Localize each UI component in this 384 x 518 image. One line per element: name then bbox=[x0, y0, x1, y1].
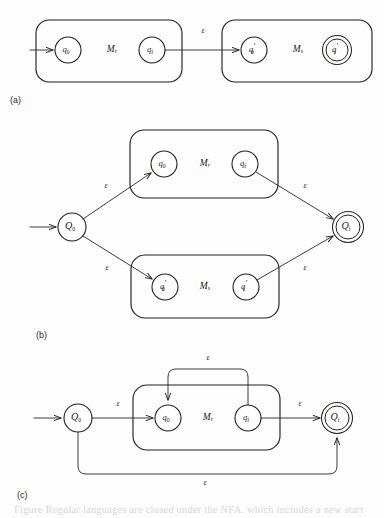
state-qf-b: qf bbox=[232, 151, 258, 177]
transition-label-epsilon-c-2: ε bbox=[298, 399, 302, 408]
transition-path-b-2 bbox=[83, 236, 152, 279]
transition-path-c-loop bbox=[168, 369, 248, 405]
transition-eps-c-2: ε bbox=[261, 399, 320, 418]
state-q0prime-b: q′0 bbox=[152, 274, 178, 300]
state-qfprime-b: q′f bbox=[233, 274, 259, 300]
transition-label-epsilon-b-4: ε bbox=[303, 263, 307, 272]
state-Q0-b: Q0 bbox=[58, 213, 86, 241]
transition-label-epsilon-b-1: ε bbox=[104, 181, 108, 190]
machine-label-ms-b: Ms bbox=[199, 281, 211, 292]
panel-a: Mr q0 qf bbox=[10, 20, 372, 105]
state-q0prime-a: q′0 bbox=[241, 37, 267, 63]
panel-label-a: (a) bbox=[10, 95, 21, 105]
automata-figure-canvas: Mr q0 qf bbox=[0, 0, 384, 518]
state-qfprime-a: q′f bbox=[323, 36, 352, 65]
transition-path-b-1 bbox=[83, 173, 151, 219]
transition-path-c-bypass bbox=[78, 432, 337, 474]
transition-path-b-3 bbox=[256, 172, 333, 219]
transition-path-b-4 bbox=[257, 236, 333, 280]
state-Qf-b: Qf bbox=[333, 212, 364, 243]
panel-label-c: (c) bbox=[17, 490, 28, 500]
transition-eps-a-1: ε bbox=[165, 26, 239, 50]
transition-eps-b-3: ε bbox=[256, 172, 333, 219]
state-Q0-c: Q0 bbox=[64, 404, 92, 432]
panel-c: ε ε Mr Q0 bbox=[17, 353, 353, 501]
state-qf-c: qf bbox=[235, 405, 261, 431]
transition-eps-b-4: ε bbox=[257, 236, 333, 280]
machine-label-mr-c: Mr bbox=[202, 412, 214, 423]
machine-label-mr: Mr bbox=[106, 44, 118, 55]
transition-label-epsilon-a-1: ε bbox=[201, 26, 205, 35]
transition-eps-b-1: ε bbox=[83, 173, 151, 219]
transition-eps-c-1: ε bbox=[92, 399, 153, 418]
figure-root: Mr q0 qf bbox=[0, 0, 384, 518]
panel-b: Q0 Mr q0 qf bbox=[30, 130, 364, 340]
state-q0-b: q0 bbox=[151, 151, 177, 177]
machine-label-mr-b: Mr bbox=[199, 158, 211, 169]
machine-label-ms: Ms bbox=[292, 44, 304, 55]
state-q0-c: q0 bbox=[155, 405, 181, 431]
transition-label-epsilon-b-3: ε bbox=[303, 181, 307, 190]
state-q0-a: q0 bbox=[55, 37, 81, 63]
transition-eps-c-bypass: ε bbox=[78, 432, 337, 487]
transition-label-epsilon-c-loop: ε bbox=[206, 353, 210, 362]
transition-eps-c-loop: ε bbox=[168, 353, 248, 405]
transition-label-epsilon-c-bypass: ε bbox=[203, 478, 207, 487]
state-qf-a: qf bbox=[139, 37, 165, 63]
transition-eps-b-2: ε bbox=[83, 236, 152, 279]
transition-label-epsilon-c-1: ε bbox=[116, 399, 120, 408]
state-Qf-c: Qf bbox=[322, 403, 353, 434]
panel-label-b: (b) bbox=[36, 330, 47, 340]
transition-label-epsilon-b-2: ε bbox=[105, 263, 109, 272]
figure-caption-clipped: Figure Regular languages are closed unde… bbox=[0, 504, 384, 518]
